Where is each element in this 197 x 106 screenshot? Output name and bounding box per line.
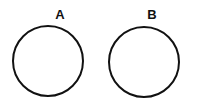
circle-a-label: A	[55, 8, 64, 21]
circle-b	[109, 27, 179, 97]
circle-b-label: B	[147, 8, 156, 21]
diagram-canvas: A B	[0, 0, 197, 106]
circle-a	[13, 26, 83, 96]
diagram-svg	[0, 0, 197, 106]
